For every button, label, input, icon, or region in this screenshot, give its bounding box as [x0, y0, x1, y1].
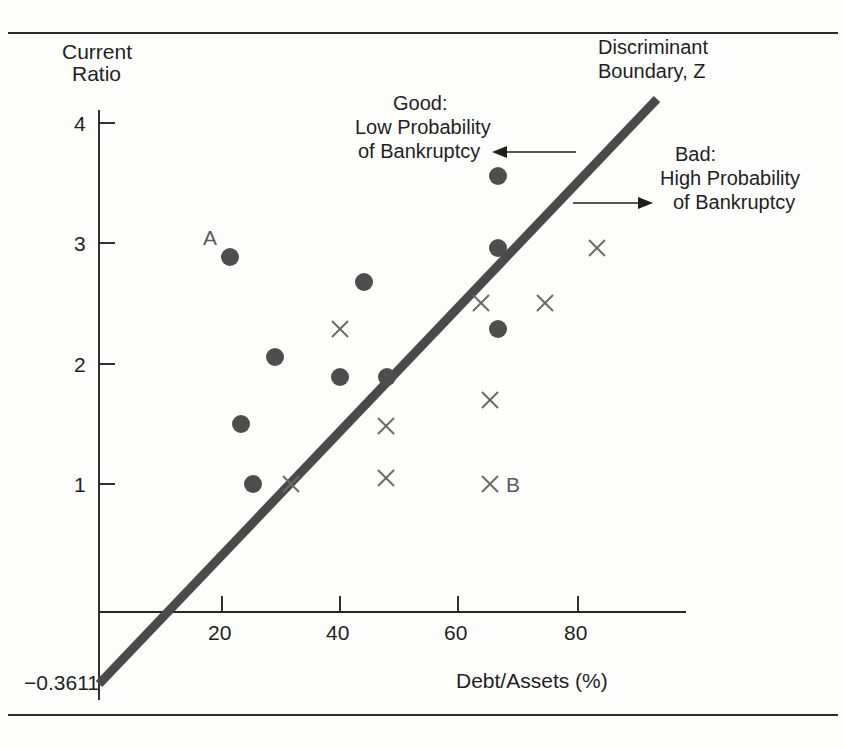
y-tick-label-2: 2	[74, 353, 86, 378]
data-point-dot	[489, 167, 507, 185]
data-point-x	[537, 295, 553, 311]
data-point-dot	[489, 239, 507, 257]
data-point-dot	[378, 368, 396, 386]
bad-arrow-head	[638, 197, 653, 209]
y-axis-title-line2: Ratio	[72, 62, 121, 87]
good-arrow-head	[492, 146, 507, 158]
data-point-x	[378, 418, 394, 434]
data-point-x	[332, 321, 348, 337]
data-point-x	[482, 392, 498, 408]
data-point-x	[589, 240, 605, 256]
data-point-x	[482, 476, 498, 492]
y-tick-label-4: 4	[74, 112, 86, 137]
figure-container: Current Ratio 4 3 2 1 −0.3611 20 40 60 8…	[0, 0, 845, 749]
point-label-a: A	[203, 226, 217, 251]
y-tick-label-1: 1	[74, 473, 86, 498]
y-tick-label-3: 3	[74, 232, 86, 257]
boundary-annotation-line1: Discriminant	[598, 36, 708, 60]
data-point-dot	[232, 415, 250, 433]
x-tick-label-80: 80	[564, 621, 587, 646]
bad-annotation-line3: of Bankruptcy	[673, 191, 795, 215]
data-point-x	[473, 295, 489, 311]
discriminant-boundary-line	[99, 99, 657, 684]
data-point-dot	[266, 348, 284, 366]
data-point-dot	[221, 248, 239, 266]
bad-annotation-line1: Bad:	[675, 143, 716, 167]
x-tick-label-60: 60	[444, 621, 467, 646]
bad-annotation-line2: High Probability	[660, 167, 800, 191]
good-annotation-line3: of Bankruptcy	[358, 140, 480, 164]
good-annotation-line2: Low Probability	[355, 116, 491, 140]
point-label-b: B	[506, 473, 520, 498]
good-annotation-line1: Good:	[393, 92, 447, 116]
data-point-dot	[244, 475, 262, 493]
x-tick-label-20: 20	[208, 621, 231, 646]
y-intercept-label: −0.3611	[24, 671, 99, 696]
data-point-x	[378, 470, 394, 486]
boundary-annotation-line2: Boundary, Z	[598, 60, 705, 84]
x-axis-title: Debt/Assets (%)	[456, 669, 608, 694]
data-point-dot	[331, 368, 349, 386]
data-point-dot	[355, 273, 373, 291]
data-point-dot	[489, 320, 507, 338]
x-tick-label-40: 40	[326, 621, 349, 646]
